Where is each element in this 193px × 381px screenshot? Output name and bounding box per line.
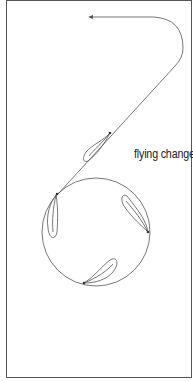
hoofprint-icon-bottom xyxy=(84,259,117,283)
hoof-tip-bottom xyxy=(83,282,86,285)
hoofprint-icon-upper xyxy=(84,133,110,161)
flying-change-diagram xyxy=(0,0,193,381)
hoof-tip-upper xyxy=(109,132,112,135)
arrow-head-icon xyxy=(88,15,93,19)
hoof-tip-right xyxy=(147,231,150,234)
flying-change-label: flying change xyxy=(134,146,193,161)
hoofprint-icon-left xyxy=(47,195,57,238)
hoofprint-icon-right xyxy=(122,195,148,232)
track-path xyxy=(58,17,183,194)
hoof-tip-left xyxy=(56,193,59,196)
